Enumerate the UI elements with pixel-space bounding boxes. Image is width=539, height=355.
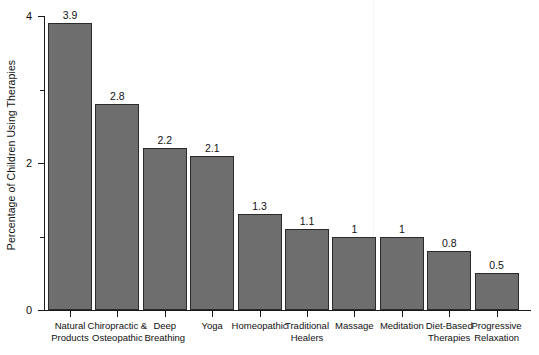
- bar: [285, 229, 329, 310]
- bar-chart: Percentage of Children Using Therapies 0…: [0, 0, 539, 355]
- x-axis-category-label-line: Breathing: [132, 332, 198, 344]
- y-axis-tick: [38, 16, 44, 17]
- bar: [48, 23, 92, 310]
- scan-artifact: [373, 0, 374, 310]
- x-axis-tick: [260, 311, 261, 317]
- y-axis-tick-label: 0: [0, 304, 32, 316]
- bar: [475, 273, 519, 310]
- y-axis-title: Percentage of Children Using Therapies: [2, 0, 20, 310]
- y-axis-tick-label: 4: [0, 10, 32, 22]
- x-axis-tick: [307, 311, 308, 317]
- x-axis-category-label-line: Progressive: [464, 320, 530, 332]
- x-axis-tick: [117, 311, 118, 317]
- bar-value-label: 3.9: [48, 9, 92, 21]
- y-axis-minor-tick: [40, 237, 44, 238]
- bar-value-label: 1: [380, 223, 424, 235]
- bar: [190, 156, 234, 310]
- bar: [95, 104, 139, 310]
- x-axis-tick: [449, 311, 450, 317]
- x-axis-category-label: ProgressiveRelaxation: [464, 320, 530, 343]
- bar-value-label: 2.8: [95, 90, 139, 102]
- x-axis-tick: [70, 311, 71, 317]
- y-axis-tick: [38, 163, 44, 164]
- x-axis-tick: [212, 311, 213, 317]
- x-axis-category-label-line: Healers: [274, 332, 340, 344]
- y-axis-minor-tick: [40, 90, 44, 91]
- bar-value-label: 0.8: [427, 237, 471, 249]
- x-axis-tick: [497, 311, 498, 317]
- x-axis-tick: [402, 311, 403, 317]
- y-axis-tick: [38, 310, 44, 311]
- x-axis-tick: [354, 311, 355, 317]
- bar-value-label: 2.1: [190, 142, 234, 154]
- bar-value-label: 0.5: [475, 259, 519, 271]
- bar-value-label: 2.2: [143, 134, 187, 146]
- x-axis-tick: [165, 311, 166, 317]
- bar-value-label: 1.3: [238, 200, 282, 212]
- bar: [238, 214, 282, 310]
- bar-value-label: 1: [332, 223, 376, 235]
- bar: [143, 148, 187, 310]
- x-axis-category-label-line: Relaxation: [464, 332, 530, 344]
- y-axis-tick-label: 2: [0, 157, 32, 169]
- bar: [427, 251, 471, 310]
- bar: [332, 237, 376, 311]
- bar-value-label: 1.1: [285, 215, 329, 227]
- bar: [380, 237, 424, 311]
- y-axis-line: [44, 16, 45, 311]
